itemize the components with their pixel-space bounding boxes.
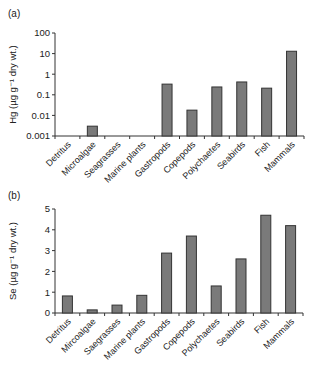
y-tick-label: 0.001 xyxy=(26,130,50,141)
bar xyxy=(261,215,271,313)
y-tick-label: 3 xyxy=(45,245,50,256)
bar xyxy=(62,296,72,313)
panel-label: (b) xyxy=(8,190,20,201)
y-tick-label: 2 xyxy=(45,266,50,277)
y-axis-title: Se (µg g⁻¹ dry wt.) xyxy=(7,222,18,300)
y-tick-label: 0.1 xyxy=(37,89,50,100)
panel-label: (a) xyxy=(8,8,20,19)
x-category-label: Fish xyxy=(253,139,272,158)
bar xyxy=(112,305,122,313)
y-tick-label: 0.01 xyxy=(32,110,51,121)
bar xyxy=(162,253,172,313)
bar xyxy=(287,51,297,136)
x-category-label: Seabirds xyxy=(215,139,248,172)
x-category-label: Fish xyxy=(252,316,271,335)
bar xyxy=(237,82,247,136)
bar xyxy=(286,226,296,313)
bar xyxy=(236,259,246,313)
y-tick-label: 0 xyxy=(45,307,50,318)
y-axis-title: Hg (µg g⁻¹ dry wt.) xyxy=(7,45,18,124)
chart-figure: (a)0.0010.010.1110100Hg (µg g⁻¹ dry wt.)… xyxy=(0,0,321,376)
y-tick-label: 4 xyxy=(45,224,50,235)
bar xyxy=(186,236,196,313)
bar xyxy=(137,295,147,313)
y-tick-label: 1 xyxy=(45,287,50,298)
chart-panel-b: (b)012345Se (µg g⁻¹ dry wt.)DetritusMirc… xyxy=(7,190,303,362)
bar xyxy=(211,286,221,313)
x-category-label: Seabirds xyxy=(214,316,247,349)
bar xyxy=(187,110,197,136)
bar xyxy=(212,87,222,136)
y-tick-label: 5 xyxy=(45,203,50,214)
y-tick-label: 100 xyxy=(34,27,50,38)
bar xyxy=(162,84,172,136)
y-tick-label: 1 xyxy=(45,69,50,80)
chart-panel-a: (a)0.0010.010.1110100Hg (µg g⁻¹ dry wt.)… xyxy=(7,8,304,185)
bar xyxy=(87,310,97,313)
y-tick-label: 10 xyxy=(39,48,50,59)
bar xyxy=(87,126,97,136)
bar xyxy=(262,88,272,136)
